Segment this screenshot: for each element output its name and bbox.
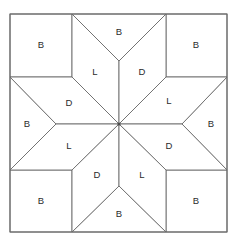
patch-label-edge-triangle-right: B [208,118,215,129]
patch-label-corner-top-left: B [38,39,45,50]
patch-label-star-point-s-left: D [93,169,100,180]
patch-label-corner-bottom-left: B [38,195,45,206]
patch-label-star-point-e-upper: L [166,95,171,106]
patch-label-star-point-n-left: L [92,66,97,77]
patch-label-star-point-w-upper: D [65,97,72,108]
patch-label-star-point-n-right: D [138,66,145,77]
patch-label-corner-bottom-right: B [193,195,200,206]
patch-label-edge-triangle-top: B [116,26,123,37]
quilt-block-diagram: BBBBBBBBLDDLLDDL [0,0,233,245]
quilt-block-svg: BBBBBBBBLDDLLDDL [0,0,233,245]
patch-label-star-point-w-lower: L [66,140,71,151]
patch-label-star-point-e-lower: D [165,140,172,151]
patch-label-edge-triangle-bottom: B [116,208,123,219]
star-center-point [117,122,120,125]
patch-label-edge-triangle-left: B [24,118,31,129]
patch-label-star-point-s-right: L [139,169,144,180]
patch-label-corner-top-right: B [193,39,200,50]
